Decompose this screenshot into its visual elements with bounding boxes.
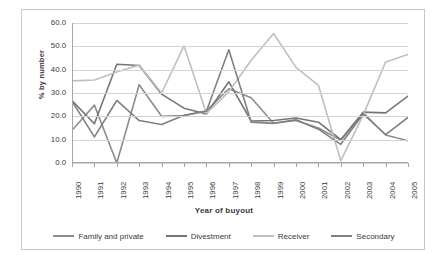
x-tick-label: 1995 [187, 182, 195, 199]
plot-wrapper: % by number 0.010.020.030.040.050.060.0 … [22, 10, 426, 251]
legend-label: Family and private [78, 232, 143, 241]
x-tick-label: 2002 [344, 182, 352, 199]
chart-legend: Family and privateDivestmentReceiverSeco… [22, 226, 426, 246]
y-tick-label: 60.0 [32, 19, 66, 27]
x-tick-label: 2000 [299, 182, 307, 199]
y-tick-label: 10.0 [32, 136, 66, 144]
plot-area [72, 23, 408, 163]
x-tick-label: 1994 [165, 182, 173, 199]
gridline [72, 140, 408, 141]
legend-item[interactable]: Divestment [166, 232, 231, 241]
legend-swatch-icon [331, 235, 352, 237]
legend-swatch-icon [166, 235, 187, 237]
x-tick-label: 1999 [277, 182, 285, 199]
x-tick-label: 1997 [232, 182, 240, 199]
y-axis-line [72, 23, 73, 163]
x-axis-title: Year of buyout [22, 206, 426, 215]
series-line [72, 85, 408, 163]
legend-swatch-icon [53, 235, 74, 237]
y-tick-label: 30.0 [32, 89, 66, 97]
x-tick-label: 1990 [75, 182, 83, 199]
x-axis-line [72, 162, 408, 163]
y-tick-label: 0.0 [32, 159, 66, 167]
legend-swatch-icon [253, 235, 274, 237]
x-tick-label: 1991 [97, 182, 105, 199]
gridline [72, 46, 408, 47]
legend-item[interactable]: Family and private [53, 232, 143, 241]
y-tick-label: 40.0 [32, 66, 66, 74]
legend-item[interactable]: Secondary [331, 232, 394, 241]
y-tick-label: 20.0 [32, 112, 66, 120]
chart-container: % by number 0.010.020.030.040.050.060.0 … [21, 9, 425, 250]
x-tick-label: 2005 [411, 182, 419, 199]
x-tick-label: 2001 [321, 182, 329, 199]
legend-label: Divestment [191, 232, 231, 241]
x-tick-label: 2004 [389, 182, 397, 199]
gridline [72, 70, 408, 71]
x-tick-label: 1998 [254, 182, 262, 199]
legend-item[interactable]: Receiver [253, 232, 310, 241]
x-tick-label: 1996 [209, 182, 217, 199]
x-tick-label: 2003 [366, 182, 374, 199]
legend-label: Secondary [356, 232, 394, 241]
x-tickmark [408, 163, 409, 167]
x-axis-tick-labels: 1990199119921993199419951996199719981999… [72, 167, 408, 207]
gridline [72, 23, 408, 24]
gridline [72, 116, 408, 117]
gridline [72, 93, 408, 94]
y-tick-label: 50.0 [32, 42, 66, 50]
x-tick-label: 1992 [120, 182, 128, 199]
gridline [72, 163, 408, 164]
legend-label: Receiver [278, 232, 310, 241]
x-tick-label: 1993 [142, 182, 150, 199]
